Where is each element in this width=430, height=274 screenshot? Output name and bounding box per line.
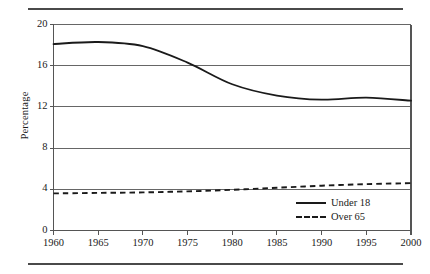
y-tick-marks xyxy=(50,25,54,231)
x-tick-label: 2000 xyxy=(389,237,430,248)
x-tick-label: 1980 xyxy=(210,237,254,248)
legend-item-over-65: Over 65 xyxy=(296,210,370,224)
series-line-1 xyxy=(54,42,412,101)
series-line-2 xyxy=(54,183,412,193)
y-tick-label: 8 xyxy=(26,141,48,152)
legend-line-dashed-icon xyxy=(296,212,326,222)
legend-label-under-18: Under 18 xyxy=(331,196,370,210)
legend-line-solid-icon xyxy=(296,198,326,208)
x-tick-label: 1975 xyxy=(166,237,210,248)
x-tick-label: 1985 xyxy=(255,237,299,248)
legend-item-under-18: Under 18 xyxy=(296,196,370,210)
x-tick-label: 1990 xyxy=(300,237,344,248)
figure-container: Percentage 048121620 1960196519701975198… xyxy=(0,0,430,274)
series-lines xyxy=(54,42,412,193)
x-tick-label: 1960 xyxy=(32,237,76,248)
y-tick-label: 20 xyxy=(26,18,48,29)
x-tick-label: 1995 xyxy=(344,237,388,248)
y-tick-label: 0 xyxy=(26,224,48,235)
y-tick-label: 16 xyxy=(26,59,48,70)
x-tick-label: 1965 xyxy=(76,237,120,248)
y-tick-label: 4 xyxy=(26,182,48,193)
legend-label-over-65: Over 65 xyxy=(331,210,365,224)
y-tick-label: 12 xyxy=(26,100,48,111)
x-tick-label: 1970 xyxy=(121,237,165,248)
chart-legend: Under 18 Over 65 xyxy=(296,196,370,224)
x-tick-marks xyxy=(54,231,412,235)
line-chart xyxy=(0,0,430,274)
